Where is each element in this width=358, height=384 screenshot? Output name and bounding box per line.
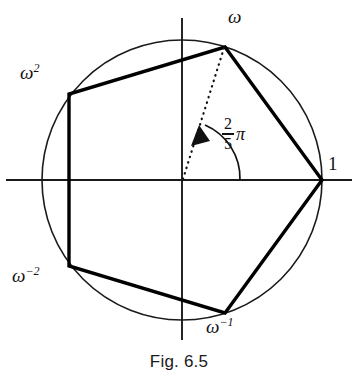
omega-base: ω [228,6,241,27]
vertex-label-omega-squared: ω2 [20,62,39,82]
angle-numerator: 2 [223,116,233,132]
figure-caption: Fig. 6.5 [0,352,358,372]
vertex-label-omega-minus-one: ω−1 [206,316,234,336]
omega-minus-one-base: ω [206,316,219,337]
angle-denominator: 5 [223,136,233,152]
omega-minus-one-exponent: −1 [219,315,233,329]
vertex-label-omega: ω [228,6,241,26]
omega-squared-base: ω [20,62,33,83]
omega-minus-two-base: ω [12,265,25,286]
pi-symbol: π [236,124,245,145]
omega-squared-exponent: 2 [33,61,39,75]
vertex-label-omega-minus-two: ω−2 [12,265,40,285]
angle-label: 2 5 π [222,116,245,152]
dotted-radius-to-omega [183,48,224,179]
angle-arrowhead [191,125,210,146]
angle-fraction: 2 5 [222,116,234,152]
roots-of-unity-diagram [0,0,358,384]
figure-container: ω ω2 ω−2 ω−1 1 2 5 π Fig. 6.5 [0,0,358,384]
omega-minus-two-exponent: −2 [25,264,39,278]
vertex-label-one: 1 [328,154,338,173]
